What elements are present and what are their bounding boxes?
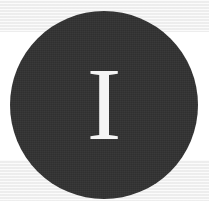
avatar-monogram-letter: I xyxy=(87,52,122,156)
avatar[interactable]: I xyxy=(10,11,198,199)
avatar-canvas: I xyxy=(0,0,209,201)
